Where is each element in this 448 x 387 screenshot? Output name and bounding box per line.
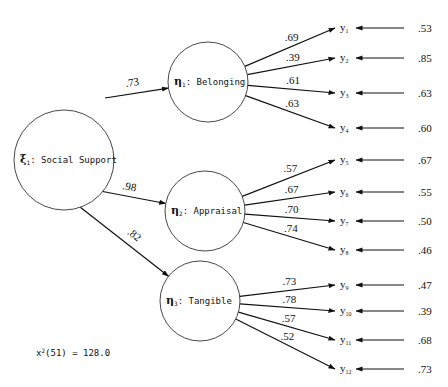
loading-value: .57 xyxy=(284,162,298,174)
indicator-label: y7 xyxy=(340,214,349,227)
loading-value: .57 xyxy=(282,312,296,324)
error-variance: .47 xyxy=(418,279,432,291)
path-xi-to-eta1 xyxy=(105,88,168,98)
indicator-label: y3 xyxy=(340,86,349,99)
node-label-social-support: ξ1: Social Support xyxy=(20,153,117,166)
loading-path-y3 xyxy=(248,85,335,93)
error-variance: .68 xyxy=(418,334,432,346)
error-variance: .67 xyxy=(418,154,432,166)
error-variance: .46 xyxy=(418,244,432,256)
loading-value: .63 xyxy=(285,97,299,109)
loading-value: .73 xyxy=(282,275,296,287)
indicator-label: y9 xyxy=(340,278,349,291)
indicator-label: y4 xyxy=(340,121,349,134)
loading-value: .70 xyxy=(285,203,299,215)
path-coefficient-eta2: .98 xyxy=(122,179,138,193)
indicator-label: y12 xyxy=(340,362,352,375)
loading-path-y12 xyxy=(236,319,335,369)
error-variance: .63 xyxy=(418,87,432,99)
node-label-appraisal: η2: Appraisal xyxy=(171,204,242,217)
indicator-label: y1 xyxy=(340,21,349,34)
path-coefficient-eta1: .73 xyxy=(124,75,140,89)
loading-path-y7 xyxy=(245,214,335,221)
loading-value: .74 xyxy=(284,222,298,234)
error-variance: .53 xyxy=(418,22,432,34)
error-variance: .73 xyxy=(418,363,432,375)
loading-value: .61 xyxy=(286,74,300,86)
error-variance: .85 xyxy=(418,52,432,64)
node-label-belonging: η1: Belonging xyxy=(174,75,245,88)
error-variance: .55 xyxy=(418,186,432,198)
indicator-label: y11 xyxy=(340,333,351,346)
indicator-label: y6 xyxy=(340,185,349,198)
loading-value: .39 xyxy=(286,51,300,63)
indicator-label: y5 xyxy=(340,153,349,166)
path-xi-to-eta3 xyxy=(80,207,169,276)
loading-value: .67 xyxy=(285,183,299,195)
loading-path-y10 xyxy=(240,304,335,311)
error-variance: .50 xyxy=(418,215,432,227)
loading-value: .52 xyxy=(280,330,294,342)
loading-value: .78 xyxy=(282,293,296,305)
sem-diagram: .73.98.82.69y1.53.39y2.85.61y3.63.63y4.6… xyxy=(0,0,448,387)
path-coefficient-eta3: .82 xyxy=(126,226,144,244)
indicator-label: y2 xyxy=(340,51,349,64)
error-variance: .60 xyxy=(418,122,432,134)
indicator-label: y10 xyxy=(340,304,352,317)
error-variance: .39 xyxy=(418,305,432,317)
indicator-label: y8 xyxy=(340,243,349,256)
loading-value: .69 xyxy=(285,31,299,43)
chi-square-fit: x2(51) = 128.0 xyxy=(36,347,110,358)
